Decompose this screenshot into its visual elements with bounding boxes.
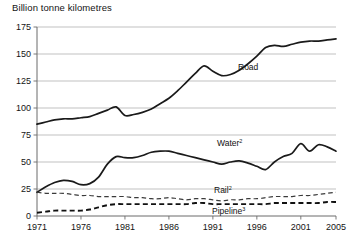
y-tick-label-150: 150 bbox=[16, 49, 31, 59]
series-label-rail: Rail2 bbox=[214, 185, 232, 195]
y-tick-label-100: 100 bbox=[16, 103, 31, 113]
series-line-water bbox=[37, 144, 336, 193]
y-tick-label-75: 75 bbox=[21, 130, 31, 140]
data-series-group bbox=[37, 39, 336, 213]
y-tick-label-125: 125 bbox=[16, 76, 31, 86]
gridlines-group bbox=[37, 27, 336, 189]
x-tick-label-2001: 2001 bbox=[291, 222, 311, 232]
x-tick-label-1971: 1971 bbox=[27, 222, 47, 232]
x-tick-label-1986: 1986 bbox=[159, 222, 179, 232]
y-tick-label-0: 0 bbox=[26, 211, 31, 221]
x-tick-label-1976: 1976 bbox=[71, 222, 91, 232]
series-label-road: Road bbox=[238, 62, 259, 72]
series-annotations-group: RoadWater2Rail2Pipeline3 bbox=[212, 62, 259, 216]
series-line-road bbox=[37, 39, 336, 124]
x-tick-label-1996: 1996 bbox=[247, 222, 267, 232]
x-tick-label-1981: 1981 bbox=[115, 222, 135, 232]
series-label-pipeline: Pipeline3 bbox=[212, 206, 245, 216]
line-chart-plot: 0255075100125150175 19711976198119861991… bbox=[0, 0, 352, 242]
y-tick-label-175: 175 bbox=[16, 22, 31, 32]
series-line-pipeline bbox=[37, 202, 336, 213]
x-axis-ticks-group: 19711976198119861991199620012005 bbox=[27, 216, 346, 232]
chart-container: Billion tonne kilometres 025507510012515… bbox=[0, 0, 352, 242]
series-line-rail bbox=[37, 192, 336, 201]
y-axis-ticks-group: 0255075100125150175 bbox=[16, 22, 37, 221]
y-tick-label-25: 25 bbox=[21, 184, 31, 194]
axes-group bbox=[37, 27, 336, 216]
x-tick-label-2005: 2005 bbox=[326, 222, 346, 232]
series-label-water: Water2 bbox=[217, 138, 242, 148]
x-tick-label-1991: 1991 bbox=[203, 222, 223, 232]
y-tick-label-50: 50 bbox=[21, 157, 31, 167]
